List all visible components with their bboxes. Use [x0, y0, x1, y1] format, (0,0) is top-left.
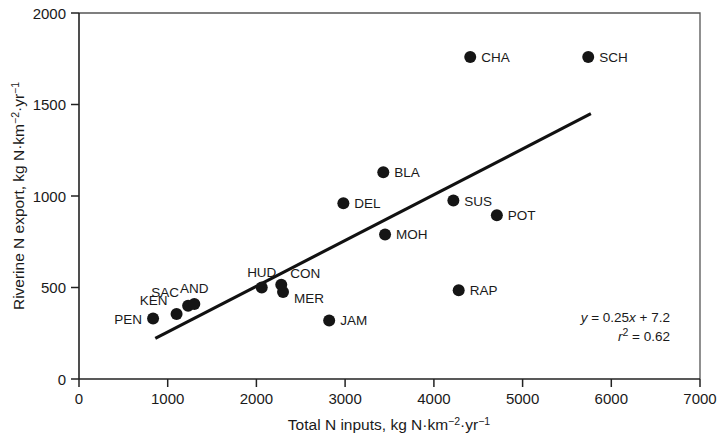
data-point-label: MOH [396, 227, 428, 242]
data-point-marker [453, 284, 465, 296]
scatter-plot-figure: 0 500 1000 1500 2000 0 1000 2000 3000 40… [0, 0, 719, 439]
data-point-marker [147, 313, 159, 325]
data-point-marker [275, 279, 287, 291]
data-point: SUS [447, 194, 492, 209]
data-point: CHA [464, 50, 510, 65]
data-point-label: CON [290, 266, 320, 281]
data-point: BLA [377, 165, 420, 180]
y-tick-label: 2000 [33, 5, 66, 22]
x-tick-label: 2000 [240, 390, 273, 407]
y-tick-label: 1000 [33, 188, 66, 205]
y-tick-label: 0 [58, 371, 66, 388]
data-point: CON [275, 266, 320, 291]
data-point: SCH [582, 50, 628, 65]
data-point-marker [337, 197, 349, 209]
data-point: RAP [453, 283, 498, 298]
data-point-label: PEN [114, 312, 142, 327]
data-point-marker [171, 308, 183, 320]
data-point-label: SAC [151, 285, 179, 300]
r-squared-text: r2 = 0.62 [618, 326, 670, 344]
x-axis-tick-labels: 0 1000 2000 3000 4000 5000 6000 7000 [75, 390, 717, 407]
data-point-label: HUD [247, 265, 276, 280]
x-tick-label: 4000 [417, 390, 450, 407]
data-points-layer: PENKENSACANDHUDMERCONJAMDELBLAMOHSUSRAPC… [114, 50, 627, 329]
y-axis-tick-labels: 0 500 1000 1500 2000 [33, 5, 66, 388]
x-tick-label: 0 [75, 390, 83, 407]
data-point-label: MER [294, 291, 324, 306]
data-point-marker [491, 209, 503, 221]
data-point-label: DEL [354, 196, 381, 211]
data-point-marker [323, 314, 335, 326]
data-point-marker [582, 51, 594, 63]
data-point: POT [491, 208, 536, 223]
data-point: JAM [323, 313, 367, 328]
x-tick-label: 3000 [328, 390, 361, 407]
data-point-marker [379, 228, 391, 240]
y-tick-label: 500 [41, 279, 66, 296]
data-point-label: CHA [481, 50, 510, 65]
data-point: MOH [379, 227, 428, 242]
data-point-label: SUS [464, 194, 492, 209]
regression-line [155, 114, 591, 339]
y-axis-ticks [71, 13, 79, 379]
x-tick-label: 1000 [151, 390, 184, 407]
data-point-label: POT [508, 208, 536, 223]
data-point-marker [464, 51, 476, 63]
x-axis-ticks [79, 379, 700, 387]
data-point-label: SCH [599, 50, 628, 65]
data-point-label: RAP [470, 283, 498, 298]
data-point-label: JAM [340, 313, 367, 328]
x-tick-label: 6000 [595, 390, 628, 407]
x-tick-label: 7000 [683, 390, 716, 407]
data-point-label: BLA [394, 165, 420, 180]
data-point-marker [377, 166, 389, 178]
data-point-marker [188, 298, 200, 310]
plot-canvas: 0 500 1000 1500 2000 0 1000 2000 3000 40… [0, 0, 719, 439]
y-axis-title: Riverine N export, kg N·km−2·yr−1 [9, 82, 27, 310]
data-point-marker [447, 195, 459, 207]
data-point-label: AND [180, 281, 209, 296]
data-point: DEL [337, 196, 381, 211]
equation-text: y = 0.25x + 7.2 [580, 310, 670, 325]
data-point: PEN [114, 312, 159, 327]
x-tick-label: 5000 [506, 390, 539, 407]
regression-annotation: y = 0.25x + 7.2 r2 = 0.62 [580, 310, 670, 344]
data-point-marker [256, 282, 268, 294]
x-axis-title: Total N inputs, kg N·km−2·yr−1 [288, 415, 490, 433]
y-tick-label: 1500 [33, 96, 66, 113]
